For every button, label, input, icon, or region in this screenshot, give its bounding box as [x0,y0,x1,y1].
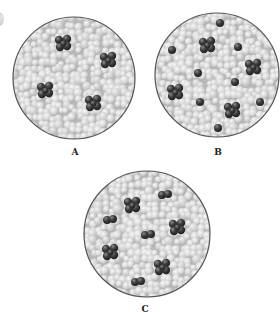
molecule-cluster [169,219,185,235]
single-atom [194,69,202,77]
diagram-canvas [0,0,280,319]
molecule-cluster [199,37,215,53]
panel-label-b: B [214,147,222,157]
single-atom [168,46,176,54]
single-atom [216,19,224,27]
molecule-cluster [85,95,101,111]
molecule-cluster [245,59,261,75]
particle-diagram: A B C [0,0,280,319]
panel-c [74,162,215,303]
molecule-cluster [55,35,71,51]
molecule-cluster [124,197,140,213]
molecule-cluster [100,52,116,68]
panel-a [3,7,143,143]
panel-label-c: C [141,304,148,314]
single-atom [234,43,242,51]
molecule-cluster [167,84,183,100]
molecule-cluster [102,244,118,260]
single-atom [256,98,264,106]
single-atom [196,98,204,106]
single-atom [231,78,239,86]
panel-b [145,3,280,145]
single-atom [214,124,222,132]
molecule-cluster [224,102,240,118]
panel-label-a: A [72,147,79,157]
molecule-cluster [37,82,53,98]
molecule-cluster [154,259,170,275]
